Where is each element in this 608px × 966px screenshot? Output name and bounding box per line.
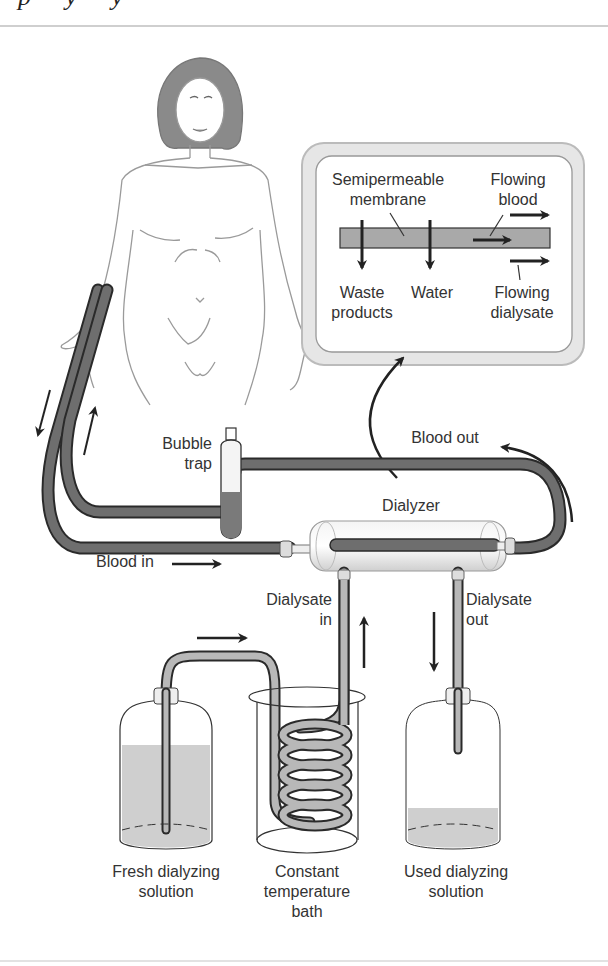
blood-down-arrow: [38, 390, 50, 435]
bath-label: Constant temperature bath: [252, 862, 362, 922]
footer-divider: [0, 960, 608, 962]
dialyzer-label: Dialyzer: [376, 496, 446, 516]
flowing-blood-label: Flowing blood: [478, 170, 558, 210]
fresh-solution-bottle-icon: [120, 688, 212, 849]
hemodialysis-diagram: [0, 0, 608, 966]
blood-up-arrow: [84, 408, 95, 455]
used-solution-label: Used dialyzing solution: [386, 862, 526, 902]
blood-in-label: Blood in: [96, 552, 154, 572]
membrane-label: Semipermeable membrane: [326, 170, 450, 210]
dialysate-in-label: Dialysate in: [248, 590, 332, 630]
bubble-trap-icon: [221, 428, 241, 539]
dialyzer-icon: [280, 521, 515, 571]
bubble-trap-label: Bubble trap: [146, 434, 212, 474]
membrane-bar: [340, 228, 550, 248]
patient-figure: [61, 58, 322, 405]
used-solution-bottle-icon: [406, 688, 500, 849]
water-label: Water: [402, 283, 462, 303]
waste-products-label: Waste products: [324, 283, 400, 323]
flowing-dialysate-label: Flowing dialysate: [482, 283, 562, 323]
face-icon: [176, 78, 224, 142]
fresh-solution-label: Fresh dialyzing solution: [96, 862, 236, 902]
dialysate-out-label: Dialysate out: [466, 590, 532, 630]
blood-out-label: Blood out: [400, 428, 490, 448]
